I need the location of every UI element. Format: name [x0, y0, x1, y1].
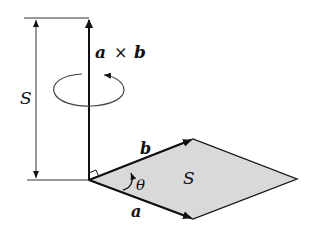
- vector-b-label: b: [140, 139, 151, 158]
- area-label: S: [183, 168, 195, 188]
- cross-product-diagram: a × b S S b a θ: [0, 0, 320, 238]
- cross-label-a: a: [95, 42, 106, 62]
- angle-label: θ: [136, 176, 145, 194]
- cross-label-times: ×: [114, 43, 127, 62]
- vector-a-label: a: [131, 202, 141, 221]
- cross-label-b: b: [134, 42, 146, 62]
- height-label: S: [20, 88, 32, 108]
